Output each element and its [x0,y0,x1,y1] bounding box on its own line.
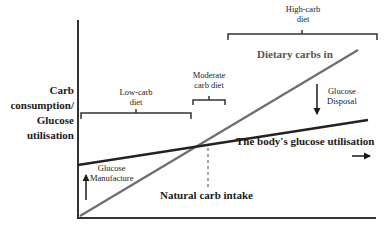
natural-carb-intake-label: Natural carb intake [160,189,253,202]
glucose-disposal-label: Glucose Disposal [327,87,357,107]
moderate-carb-label: Moderate carb diet [184,71,234,91]
y-axis-label-line: Glucose [10,113,74,128]
y-axis-label-line: utilisation [10,128,74,143]
moderate-carb-label-line: carb diet [184,81,234,91]
glucose-manufacture-label-line: Manufacture [90,174,133,184]
high-carb-bracket [228,30,377,40]
glucose-utilisation-label: The body's glucose utilisation [236,135,374,148]
high-carb-label-line: diet [278,15,328,25]
low-carb-label: Low-carb diet [112,88,160,108]
low-carb-bracket [81,109,191,119]
high-carb-label: High-carb diet [278,5,328,25]
glucose-manufacture-label: Glucose Manufacture [90,164,133,184]
moderate-carb-bracket [193,96,225,105]
dietary-carbs-label: Dietary carbs in [257,48,333,61]
low-carb-label-line: diet [112,98,160,108]
glucose-disposal-label-line: Disposal [327,97,357,107]
y-axis-label-line: consumption/ [10,98,74,113]
y-axis-label-line: Carb [10,83,74,98]
y-axis-label: Carb consumption/ Glucose utilisation [10,83,74,143]
